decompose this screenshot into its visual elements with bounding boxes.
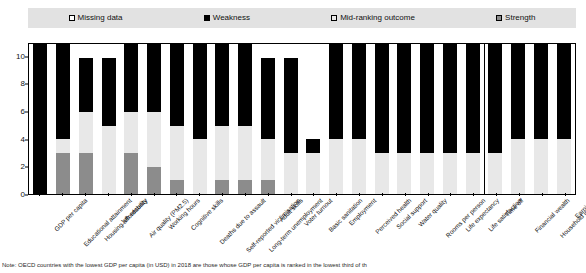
x-axis-tick-mark [268,193,269,196]
bar-segment-missing-data [79,44,93,58]
bar-segment-mid-ranking-outcome [147,112,161,167]
stacked-bar [306,44,320,194]
bar-segment-missing-data [261,44,275,58]
bar-segment-mid-ranking-outcome [466,153,480,194]
x-axis-tick-mark [245,193,246,196]
bar-segment-weakness [238,44,252,126]
stacked-bar [488,44,502,194]
stacked-bar [466,44,480,194]
bar-segment-weakness [193,44,207,139]
x-axis-tick-mark [85,193,86,196]
x-axis-tick-mark [450,193,451,196]
bar-segment-weakness [124,44,138,112]
chart-legend: Missing dataWeaknessMid-ranking outcomeS… [28,8,576,28]
bar-segment-weakness [56,44,70,139]
square-gray-icon [496,15,502,21]
plot-area [28,43,576,195]
bar-social-support[interactable] [370,44,393,194]
bar-segment-weakness [511,44,525,139]
bar-self-reported-victimisation[interactable] [211,44,234,194]
x-axis-tick-mark [565,193,566,196]
x-axis-tick-label: GDP per capita [54,197,89,232]
chart-figure: Missing dataWeaknessMid-ranking outcomeS… [0,0,586,273]
bar-segment-strength [79,153,93,194]
y-axis: 0246810 [0,43,28,195]
bar-housing-affordability[interactable] [75,44,98,194]
bar-cognitive-skills[interactable] [166,44,189,194]
bar-working-hours[interactable] [143,44,166,194]
legend-item-strength[interactable]: Strength [496,14,535,22]
stacked-bar [193,44,207,194]
stacked-bar [329,44,343,194]
bar-household-income[interactable] [530,44,553,194]
group-separator [484,44,485,194]
bar-segment-mid-ranking-outcome [193,139,207,194]
bar-perceived-health[interactable] [348,44,371,194]
stacked-bar [79,44,93,194]
bar-segment-weakness [397,44,411,153]
legend-item-mid-ranking-outcome[interactable]: Mid-ranking outcome [331,14,415,22]
bar-segment-strength [124,153,138,194]
bar-segment-weakness [375,44,389,153]
bar-water-quality[interactable] [393,44,416,194]
bar-rooms-per-person[interactable] [416,44,439,194]
bar-segment-mid-ranking-outcome [488,153,502,194]
legend-item-label: Strength [505,14,535,22]
bar-financial-wealth[interactable] [507,44,530,194]
bar-life-expectancy[interactable] [439,44,462,194]
chart-footnote: Note: OECD countries with the lowest GDP… [2,262,586,269]
stacked-bar [443,44,457,194]
stacked-bar [420,44,434,194]
bar-segment-weakness [352,44,366,139]
x-axis-tick-mark [382,193,383,196]
bar-segment-mid-ranking-outcome [124,112,138,153]
stacked-bar [215,44,229,194]
stacked-bar [375,44,389,194]
x-axis-tick-label: Time off [504,197,525,218]
bar-long-term-unemployment[interactable] [234,44,257,194]
legend-item-label: Weakness [213,14,250,22]
bar-segment-mid-ranking-outcome [511,139,525,194]
bar-segment-weakness [534,44,548,139]
bar-adult-skills[interactable] [257,44,280,194]
bar-segment-strength [56,153,70,194]
x-axis-tick-mark [496,193,497,196]
x-axis-tick-mark [39,193,40,196]
bar-air-quality-pm2-5-[interactable] [120,44,143,194]
bar-segment-weakness [466,44,480,153]
stacked-bar [534,44,548,194]
bar-segment-strength [215,180,229,194]
bar-segment-mid-ranking-outcome [397,153,411,194]
x-axis-tick-mark [519,193,520,196]
bar-segment-mid-ranking-outcome [284,153,298,194]
x-axis-tick-mark [108,193,109,196]
bar-segment-mid-ranking-outcome [102,126,116,194]
bar-segment-strength [170,180,184,194]
x-axis-tick-mark [359,193,360,196]
square-filled-icon [204,15,210,21]
legend-item-label: Mid-ranking outcome [340,14,415,22]
square-outline-icon [69,15,75,21]
bar-basic-sanitation[interactable] [302,44,325,194]
bar-educational-attainment[interactable] [52,44,75,194]
bar-life-satisfaction[interactable] [461,44,484,194]
bar-time-off[interactable] [484,44,507,194]
bar-segment-missing-data [284,44,298,58]
legend-item-missing-data[interactable]: Missing data [69,14,123,22]
bar-voter-turnout[interactable] [279,44,302,194]
bar-segment-mid-ranking-outcome [443,153,457,194]
x-axis-tick-mark [405,193,406,196]
bar-earnings[interactable] [552,44,575,194]
bar-deaths-due-to-assault[interactable] [188,44,211,194]
bar-employment[interactable] [325,44,348,194]
bar-segment-weakness [557,44,571,139]
bar-gdp-per-capita[interactable] [29,44,52,194]
legend-item-weakness[interactable]: Weakness [204,14,250,22]
x-axis-tick-mark [222,193,223,196]
stacked-bar [33,44,47,194]
stacked-bar [170,44,184,194]
bar-job-security[interactable] [97,44,120,194]
bar-segment-weakness [284,58,298,153]
x-axis-tick-mark [336,193,337,196]
x-axis-tick-mark [154,193,155,196]
